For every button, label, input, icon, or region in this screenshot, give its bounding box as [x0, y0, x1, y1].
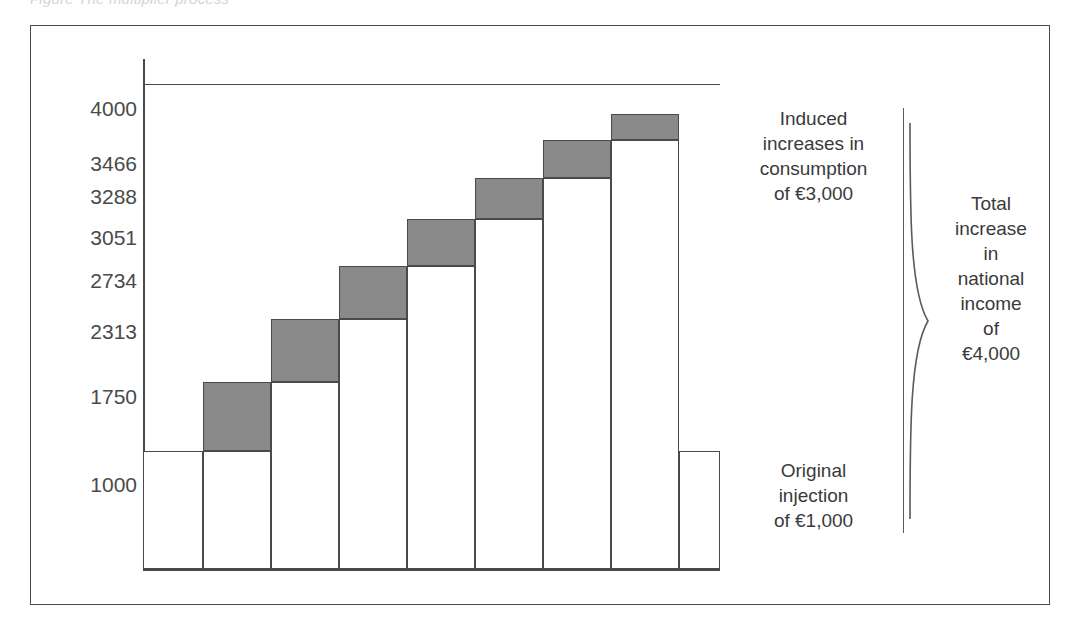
annotation-line: consumption: [731, 156, 896, 181]
y-tick-label: 2313: [45, 321, 137, 342]
y-tick-label: 3288: [45, 186, 137, 207]
figure-frame: 4000 3466 3288 3051 2734 2313 1750 1000 …: [30, 25, 1050, 605]
bar-8-body: [611, 140, 679, 569]
annotation-group-rule: [903, 108, 904, 533]
y-tick-label: 2734: [45, 270, 137, 291]
annotation-line: national: [931, 266, 1051, 291]
bar-4-shaded-increment: [339, 266, 407, 319]
annotation-line: increase: [931, 216, 1051, 241]
bar-2-shaded-increment: [203, 382, 271, 451]
bar-7-body: [543, 178, 611, 569]
annotation-line: income: [931, 291, 1051, 316]
bar-4-body: [339, 319, 407, 569]
annotation-line: of €1,000: [731, 508, 896, 533]
annotation-line: Original: [731, 458, 896, 483]
annotation-line: Induced: [731, 106, 896, 131]
annotation-line: injection: [731, 483, 896, 508]
bar-6-body: [475, 219, 543, 569]
figure-caption-text: Figure The multiplier process: [30, 0, 229, 7]
bar-7-shaded-increment: [543, 140, 611, 178]
figure-caption-strip: Figure The multiplier process: [0, 0, 1076, 14]
bar-2-body: [203, 451, 271, 569]
annotation-induced-increases: Induced increases in consumption of €3,0…: [731, 106, 896, 206]
x-axis-baseline: [143, 569, 720, 571]
gridline-4000: [143, 84, 720, 85]
y-tick-label: 1750: [45, 386, 137, 407]
bar-5-body: [407, 266, 475, 569]
annotation-line: of €3,000: [731, 181, 896, 206]
bar-6-shaded-increment: [475, 178, 543, 219]
annotation-line: of: [931, 316, 1051, 341]
y-tick-label: 4000: [45, 98, 137, 119]
bar-5-shaded-increment: [407, 219, 475, 266]
chart-plot-area: 4000 3466 3288 3051 2734 2313 1750 1000: [31, 26, 1051, 606]
annotation-line: Total: [931, 191, 1051, 216]
y-axis-labels: 4000 3466 3288 3051 2734 2313 1750 1000: [31, 26, 137, 606]
bar-8-shaded-increment: [611, 114, 679, 140]
bar-3-shaded-increment: [271, 319, 339, 382]
annotation-line: €4,000: [931, 341, 1051, 366]
bar-9-body: [679, 451, 720, 569]
annotation-total-increase: Total increase in national income of €4,…: [931, 191, 1051, 367]
bar-1-body: [143, 451, 203, 569]
y-tick-label: 3051: [45, 227, 137, 248]
y-tick-label: 1000: [45, 474, 137, 495]
annotation-line: in: [931, 241, 1051, 266]
y-tick-label: 3466: [45, 153, 137, 174]
bar-3-body: [271, 382, 339, 569]
annotation-line: increases in: [731, 131, 896, 156]
annotation-original-injection: Original injection of €1,000: [731, 458, 896, 533]
